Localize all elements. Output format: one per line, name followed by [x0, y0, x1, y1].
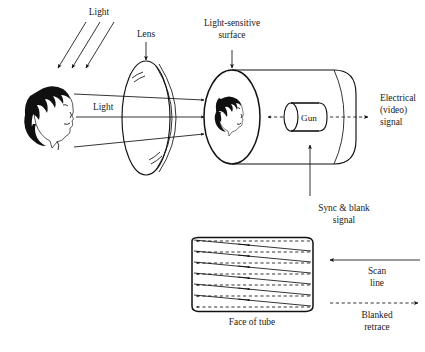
tube-face-image	[215, 97, 244, 137]
light-arrow-1	[58, 22, 86, 68]
figure-root: Light Light	[0, 0, 425, 352]
scan-arrow-4	[238, 277, 250, 278]
face-of-tube-label: Face of tube	[229, 317, 275, 327]
light-label-middle: Light	[93, 102, 114, 112]
scan-line-1	[194, 240, 311, 251]
electrical-signal-line3: signal	[380, 117, 403, 127]
scan-arrow-1	[238, 244, 250, 245]
subject-head-illustration	[24, 86, 73, 150]
scan-line-3	[194, 262, 311, 273]
incident-light-group: Light	[58, 7, 114, 68]
scan-line-2	[194, 251, 311, 262]
raster-legend-group: Scan line Blanked retrace	[330, 260, 420, 332]
light-arrow-3	[86, 22, 114, 68]
raster-lines	[194, 240, 311, 307]
electrical-signal-label-group: Electrical (video) signal	[380, 93, 416, 127]
legend-scan-line-label-1: Scan	[368, 266, 387, 276]
lens-group: Lens	[122, 29, 176, 175]
light-arrow-2	[72, 22, 100, 68]
electron-gun-group: Gun	[268, 103, 368, 131]
sync-blank-group: Sync & blank signal	[310, 145, 370, 225]
raster-group: Face of tube	[192, 238, 313, 327]
lens-label: Lens	[137, 29, 156, 39]
legend-retrace-label-1: Blanked	[361, 310, 393, 320]
camera-tube-group: Light-sensitive surface	[204, 18, 356, 164]
scan-line-4	[194, 273, 311, 284]
legend-scan-line-label-2: line	[370, 278, 384, 288]
scan-line-5	[194, 284, 311, 295]
light-sensitive-label-line2: surface	[218, 30, 245, 40]
scan-arrow-2	[238, 255, 250, 256]
light-label-top: Light	[89, 7, 110, 17]
legend-retrace-label-2: retrace	[364, 322, 390, 332]
gun-label: Gun	[301, 113, 317, 123]
sync-blank-line1: Sync & blank	[318, 203, 370, 213]
electrical-signal-line1: Electrical	[380, 93, 416, 103]
scan-line-6	[194, 295, 311, 306]
scan-arrow-5	[238, 288, 250, 289]
image-ray-upper	[74, 94, 204, 100]
camera-tube-diagram: Light Light	[0, 0, 425, 352]
image-ray-group: Light	[74, 94, 204, 147]
electrical-signal-line2: (video)	[380, 105, 407, 116]
lens-highlight-top-2	[134, 76, 145, 82]
gun-left-cap	[284, 103, 298, 131]
head-neck	[57, 141, 59, 150]
sync-blank-line2: signal	[333, 215, 356, 225]
scan-arrow-3	[238, 266, 250, 267]
image-ray-lower	[74, 134, 204, 147]
scan-arrow-6	[238, 299, 250, 300]
light-sensitive-label-line1: Light-sensitive	[204, 18, 260, 28]
lens-inner-edge-2	[159, 64, 176, 172]
